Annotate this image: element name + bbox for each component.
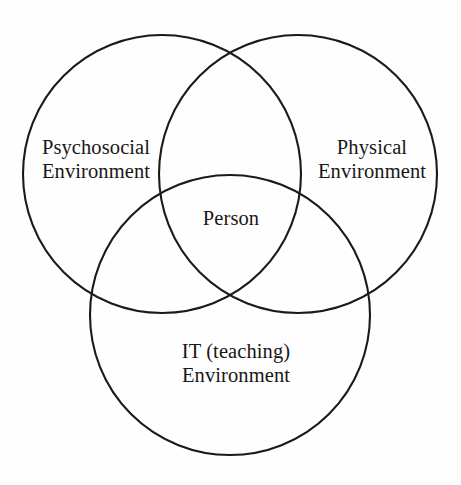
label-physical-line-2: Environment (292, 160, 452, 184)
label-psychosocial-environment: Psychosocial Environment (16, 136, 176, 184)
label-it-line-2: Environment (148, 364, 324, 388)
label-it-teaching-environment: IT (teaching) Environment (148, 340, 324, 388)
label-person-text: Person (170, 207, 292, 231)
venn-diagram-canvas (0, 0, 461, 485)
label-psychosocial-line-1: Psychosocial (16, 136, 176, 160)
venn-diagram-figure: Psychosocial Environment Physical Enviro… (0, 0, 461, 485)
label-psychosocial-line-2: Environment (16, 160, 176, 184)
label-physical-line-1: Physical (292, 136, 452, 160)
label-physical-environment: Physical Environment (292, 136, 452, 184)
label-person: Person (170, 207, 292, 231)
label-it-line-1: IT (teaching) (148, 340, 324, 364)
